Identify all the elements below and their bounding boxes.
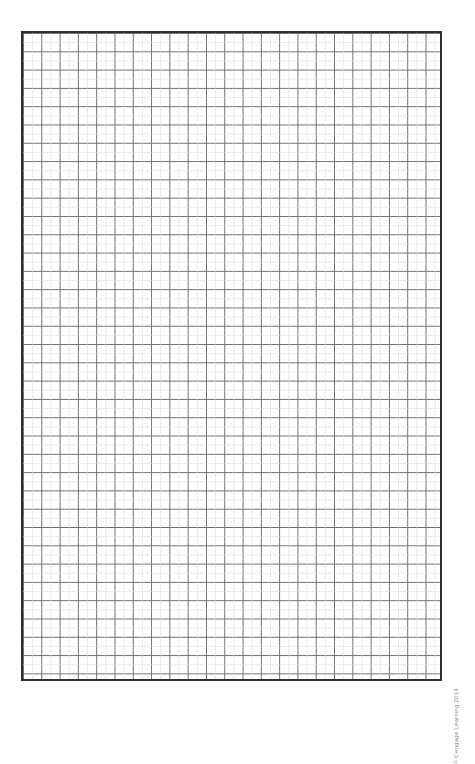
graph-paper-grid [21, 31, 442, 681]
grid-lines [23, 33, 440, 679]
copyright-text: © Cengage Learning 2014 [453, 688, 459, 764]
